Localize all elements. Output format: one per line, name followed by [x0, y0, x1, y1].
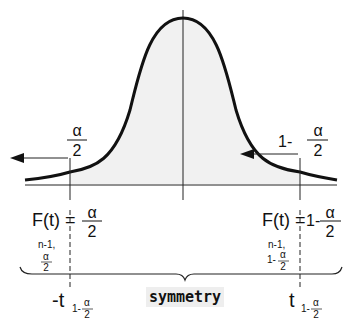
svg-text:F(t) =: F(t) = — [262, 210, 306, 230]
left-area-label: α 2 — [67, 122, 87, 159]
svg-text:2: 2 — [280, 261, 286, 272]
svg-text:2: 2 — [73, 142, 82, 159]
svg-text:1-: 1- — [72, 303, 81, 314]
svg-text:t: t — [289, 289, 295, 311]
t-distribution-diagram: α 2 1- α 2 F(t) = α 2 F(t) = 1- α 2 n-1,… — [0, 0, 355, 326]
left-cdf-label: F(t) = α 2 — [32, 204, 102, 240]
svg-text:α: α — [72, 122, 81, 139]
svg-text:1-: 1- — [306, 212, 320, 229]
right-quantile-label: t 1- α 2 — [289, 289, 322, 320]
svg-text:2: 2 — [84, 309, 90, 320]
svg-text:2: 2 — [326, 223, 335, 240]
symmetry-brace — [20, 267, 342, 280]
svg-text:1-: 1- — [301, 303, 310, 314]
svg-text:α: α — [280, 249, 286, 260]
svg-text:2: 2 — [88, 223, 97, 240]
svg-text:-t: -t — [52, 289, 65, 311]
svg-text:2: 2 — [314, 142, 323, 159]
svg-text:α: α — [325, 204, 334, 221]
svg-text:2: 2 — [313, 309, 319, 320]
left-quantile-label: -t 1- α 2 — [52, 289, 93, 320]
right-area-label: 1- α 2 — [278, 122, 328, 159]
svg-text:1-: 1- — [267, 254, 276, 265]
svg-text:α: α — [84, 297, 90, 308]
symmetry-label: symmetry — [149, 288, 221, 306]
svg-text:α: α — [313, 122, 322, 139]
left-arrow-icon — [10, 153, 68, 163]
left-df-subscript: n-1, α 2 — [38, 239, 55, 273]
right-df-subscript: n-1, 1- α 2 — [267, 239, 289, 272]
svg-text:α: α — [43, 251, 49, 262]
svg-text:F(t) =: F(t) = — [32, 210, 76, 230]
svg-text:n-1,: n-1, — [38, 239, 55, 250]
svg-text:1-: 1- — [278, 133, 292, 150]
svg-text:α: α — [87, 204, 96, 221]
right-cdf-label: F(t) = 1- α 2 — [262, 204, 341, 240]
svg-text:α: α — [313, 297, 319, 308]
svg-text:2: 2 — [43, 262, 49, 273]
